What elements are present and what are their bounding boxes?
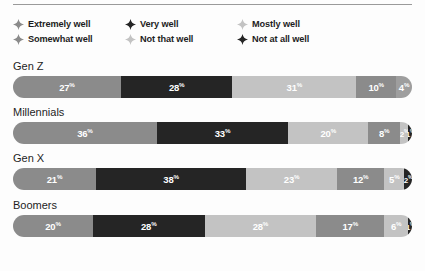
bar-segment-number: 20 [45,222,55,233]
percent-sign: % [404,81,409,88]
bar-segment-number: 38 [163,175,173,186]
percent-sign: % [331,127,336,134]
bar-segment[interactable]: 1% [408,122,412,144]
bar-segment[interactable]: 10% [356,76,396,98]
bar-segment-number: 17 [342,222,352,233]
legend-item-extremely-well[interactable]: Extremely well [13,17,125,32]
bar-segment-value: 5% [389,172,399,185]
legend-item-label: Mostly well [252,19,300,30]
percent-sign: % [410,221,412,227]
percent-sign: % [263,220,268,227]
stacked-bar-chart: Extremely wellVery wellMostly wellSomewh… [0,0,425,271]
legend-item-somewhat-well[interactable]: Somewhat well [13,32,125,47]
bar-segment-value: 8% [379,126,389,139]
percent-sign: % [363,173,368,180]
bar-segment[interactable]: 27% [13,76,121,98]
bar-segment[interactable]: 17% [316,215,384,237]
bar-segment-number: 10 [368,83,378,94]
bar-segment-number: 12 [353,175,363,186]
percent-sign: % [396,220,401,227]
bar-segment[interactable]: 2% [400,122,408,144]
diamond-marker-icon [125,19,136,30]
bar-segment-value: 2% [400,126,408,140]
bar-segment[interactable]: 20% [13,215,93,237]
diamond-marker-icon [237,34,248,45]
bar-segment-value: 2% [404,172,412,186]
diamond-marker-icon [237,19,248,30]
bar-segment[interactable]: 5% [384,168,404,190]
bar-group-label: Boomers [13,199,412,212]
percent-sign: % [353,220,358,227]
bar-segment-value: 12% [353,172,368,185]
percent-sign: % [294,173,299,180]
bar-segment-value: 1% [408,126,412,140]
bar-segment-value: 1% [408,219,412,233]
percent-sign: % [408,174,412,180]
bar-segment[interactable]: 8% [368,122,400,144]
stacked-bar: 20%28%28%17%6%1% [13,215,412,237]
bar-segment-value: 38% [163,172,178,185]
bar-segment[interactable]: 4% [396,76,412,98]
bar-group-label: Gen Z [13,60,412,73]
chart-legend: Extremely wellVery wellMostly wellSomewh… [13,17,413,47]
percent-sign: % [394,173,399,180]
percent-sign: % [87,127,92,134]
bar-segment[interactable]: 20% [288,122,368,144]
diamond-marker-icon [13,19,24,30]
bar-segment[interactable]: 38% [96,168,246,190]
bar-segment-number: 21 [47,175,57,186]
percent-sign: % [179,81,184,88]
bar-segment[interactable]: 28% [205,215,317,237]
bar-segment[interactable]: 28% [121,76,233,98]
bar-segment[interactable]: 6% [384,215,408,237]
bar-segment[interactable]: 23% [246,168,337,190]
bar-segment-value: 20% [320,126,335,139]
bar-segment[interactable]: 2% [404,168,412,190]
bar-segment[interactable]: 36% [13,122,157,144]
bar-segment[interactable]: 21% [13,168,96,190]
bar-segment-value: 21% [47,172,62,185]
bar-segment[interactable]: 31% [232,76,356,98]
percent-sign: % [173,173,178,180]
legend-item-not-that-well[interactable]: Not that well [125,32,237,47]
bar-segment-value: 10% [368,80,383,93]
bar-segment-value: 33% [215,126,230,139]
legend-item-not-at-all-well[interactable]: Not at all well [237,32,357,47]
bar-segment-number: 33 [215,129,225,140]
percent-sign: % [151,220,156,227]
legend-item-mostly-well[interactable]: Mostly well [237,17,357,32]
percent-sign: % [410,128,412,134]
bar-segment-number: 28 [169,83,179,94]
percent-sign: % [384,127,389,134]
bar-group-gen-z: Gen Z27%28%31%10%4% [13,60,412,98]
bar-segment[interactable]: 28% [93,215,205,237]
bar-group-label: Millennials [13,106,412,119]
bar-segment-value: 28% [141,219,156,232]
bar-segment[interactable]: 12% [337,168,384,190]
bar-segment-value: 20% [45,219,60,232]
legend-item-label: Very well [140,19,178,30]
legend-item-very-well[interactable]: Very well [125,17,237,32]
stacked-bar: 21%38%23%12%5%2% [13,168,412,190]
bar-segment[interactable]: 1% [408,215,412,237]
bar-segment-value: 23% [284,172,299,185]
bar-group-boomers: Boomers20%28%28%17%6%1% [13,199,412,237]
bar-segment-number: 20 [320,129,330,140]
bar-segment-number: 23 [284,175,294,186]
bar-segment-value: 28% [253,219,268,232]
percent-sign: % [57,173,62,180]
bar-segment-value: 4% [399,80,409,93]
diamond-marker-icon [13,34,24,45]
bar-group-gen-x: Gen X21%38%23%12%5%2% [13,152,412,190]
bar-group-label: Gen X [13,152,412,165]
bar-segment-value: 28% [169,80,184,93]
bar-segment[interactable]: 33% [157,122,289,144]
percent-sign: % [297,81,302,88]
bar-segment-number: 31 [287,83,297,94]
stacked-bar: 36%33%20%8%2%1% [13,122,412,144]
legend-item-label: Not at all well [252,34,309,45]
bar-segment-value: 6% [391,219,401,232]
percent-sign: % [225,127,230,134]
bar-segment-value: 17% [342,219,357,232]
bar-segment-number: 27 [59,83,69,94]
